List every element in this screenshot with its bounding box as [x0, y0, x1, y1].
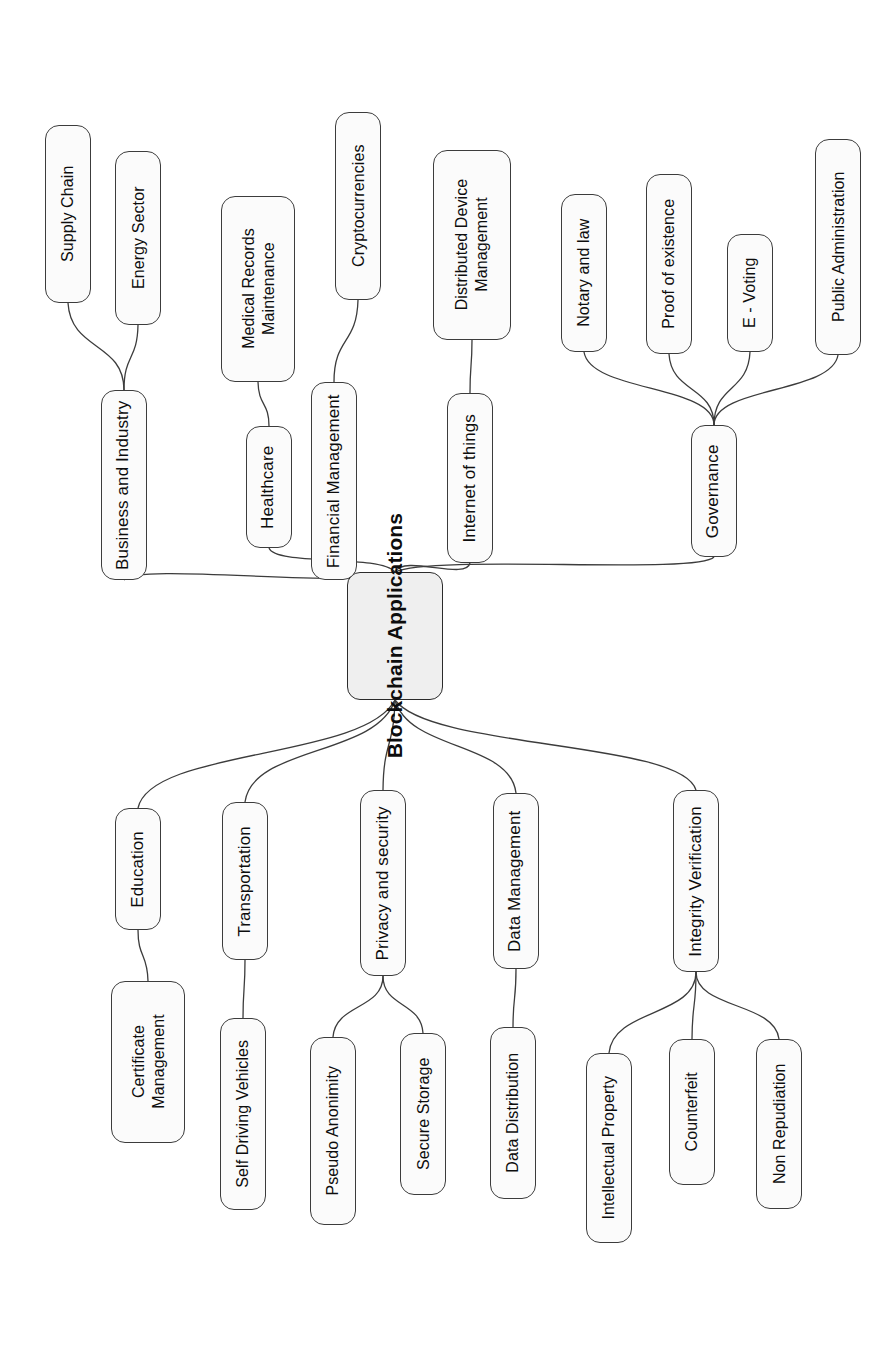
leaf-node-pseudo-anonimity[interactable]: Pseudo Anonimity — [310, 1037, 356, 1225]
node-label: Energy Sector — [128, 187, 148, 290]
node-label: Notary and law — [574, 219, 594, 327]
edge-governance--e-voting — [714, 352, 750, 425]
node-label: Integrity Verification — [686, 806, 707, 957]
edge-healthcare--medical-records-maintenance — [258, 382, 269, 426]
edge-governance--public-administration — [714, 355, 838, 425]
node-label: Proof of existence — [659, 199, 679, 329]
leaf-node-distributed-device-management[interactable]: Distributed Device Management — [433, 150, 511, 340]
edge-education--certificate-management — [138, 930, 148, 981]
node-label: Public Administration — [828, 172, 848, 323]
leaf-node-certificate-management[interactable]: Certificate Management — [111, 981, 185, 1143]
node-label: Medical Records Maintenance — [238, 229, 277, 350]
leaf-node-energy-sector[interactable]: Energy Sector — [115, 151, 161, 325]
mindmap-canvas: Blockchain ApplicationsBusiness and Indu… — [0, 0, 892, 1371]
edge-privacy-and-security--secure-storage — [383, 976, 423, 1033]
leaf-node-self-driving-vehicles[interactable]: Self Driving Vehicles — [220, 1018, 266, 1210]
node-label: Healthcare — [259, 445, 280, 528]
leaf-node-non-repudiation[interactable]: Non Repudiation — [756, 1039, 802, 1209]
node-label: Secure Storage — [413, 1058, 433, 1171]
edge-root--transportation — [245, 700, 395, 802]
edge-data-management--data-distribution — [513, 969, 516, 1027]
branch-node-education[interactable]: Education — [115, 808, 161, 930]
edge-root--integrity-verification — [395, 700, 696, 790]
edge-financial-management--cryptocurrencies — [334, 300, 358, 382]
branch-node-internet-of-things[interactable]: Internet of things — [447, 393, 493, 563]
node-label: Data Distribution — [503, 1053, 523, 1173]
leaf-node-secure-storage[interactable]: Secure Storage — [400, 1033, 446, 1195]
edge-governance--proof-of-existence — [669, 354, 714, 425]
edge-root--governance — [395, 557, 714, 572]
node-label: Cryptocurrencies — [348, 145, 368, 268]
branch-node-healthcare[interactable]: Healthcare — [246, 426, 292, 548]
node-label: Counterfeit — [682, 1072, 702, 1151]
node-label: Blockchain Applications — [381, 513, 408, 758]
leaf-node-e-voting[interactable]: E - Voting — [727, 234, 773, 352]
node-label: Data Management — [506, 810, 527, 951]
leaf-node-medical-records-maintenance[interactable]: Medical Records Maintenance — [221, 196, 295, 382]
node-label: Self Driving Vehicles — [233, 1040, 253, 1188]
leaf-node-notary-and-law[interactable]: Notary and law — [561, 194, 607, 352]
leaf-node-supply-chain[interactable]: Supply Chain — [45, 125, 91, 303]
leaf-node-public-administration[interactable]: Public Administration — [815, 139, 861, 355]
node-label: Financial Management — [324, 394, 345, 568]
node-label: Business and Industry — [114, 400, 135, 569]
node-label: Pseudo Anonimity — [323, 1066, 343, 1196]
branch-node-data-management[interactable]: Data Management — [493, 793, 539, 969]
branch-node-privacy-and-security[interactable]: Privacy and security — [360, 790, 406, 976]
edge-privacy-and-security--pseudo-anonimity — [333, 976, 383, 1037]
branch-node-business-and-industry[interactable]: Business and Industry — [101, 390, 147, 580]
edge-internet-of-things--distributed-device-management — [470, 340, 472, 393]
node-label: Internet of things — [460, 414, 481, 542]
node-label: Non Repudiation — [769, 1064, 789, 1185]
edge-root--education — [138, 700, 395, 808]
root-node[interactable]: Blockchain Applications — [347, 572, 443, 700]
branch-node-governance[interactable]: Governance — [691, 425, 737, 557]
node-label: E - Voting — [740, 258, 760, 328]
branch-node-integrity-verification[interactable]: Integrity Verification — [673, 790, 719, 972]
node-label: Governance — [704, 444, 725, 538]
edge-business-and-industry--energy-sector — [124, 325, 138, 390]
leaf-node-cryptocurrencies[interactable]: Cryptocurrencies — [335, 112, 381, 300]
edge-transportation--self-driving-vehicles — [243, 960, 245, 1018]
edge-governance--notary-and-law — [584, 352, 714, 425]
leaf-node-proof-of-existence[interactable]: Proof of existence — [646, 174, 692, 354]
node-label: Education — [128, 831, 149, 908]
node-label: Transportation — [235, 826, 256, 936]
edge-integrity-verification--non-repudiation — [696, 972, 779, 1039]
leaf-node-counterfeit[interactable]: Counterfeit — [669, 1039, 715, 1185]
node-label: Certificate Management — [128, 1015, 167, 1109]
branch-node-transportation[interactable]: Transportation — [222, 802, 268, 960]
branch-node-financial-management[interactable]: Financial Management — [311, 382, 357, 580]
node-label: Distributed Device Management — [452, 179, 491, 311]
node-label: Privacy and security — [373, 806, 394, 960]
leaf-node-intellectual-property[interactable]: Intellectual Property — [586, 1053, 632, 1243]
node-label: Supply Chain — [58, 166, 78, 262]
leaf-node-data-distribution[interactable]: Data Distribution — [490, 1027, 536, 1199]
node-label: Intellectual Property — [599, 1076, 619, 1220]
